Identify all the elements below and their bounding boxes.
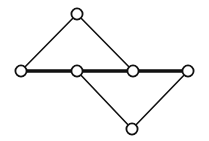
- node-mid-right: [127, 65, 138, 76]
- edge-left-top: [21, 14, 77, 71]
- node-top: [71, 8, 82, 19]
- node-bottom: [126, 123, 137, 134]
- node-right: [182, 65, 193, 76]
- graph-diagram: [0, 0, 209, 141]
- edge-bottom-right: [132, 71, 188, 129]
- node-left: [15, 65, 26, 76]
- node-mid-left: [71, 65, 82, 76]
- edge-mid-left-bottom: [77, 71, 132, 129]
- edges-group: [21, 14, 188, 129]
- edge-top-mid-right: [77, 14, 133, 71]
